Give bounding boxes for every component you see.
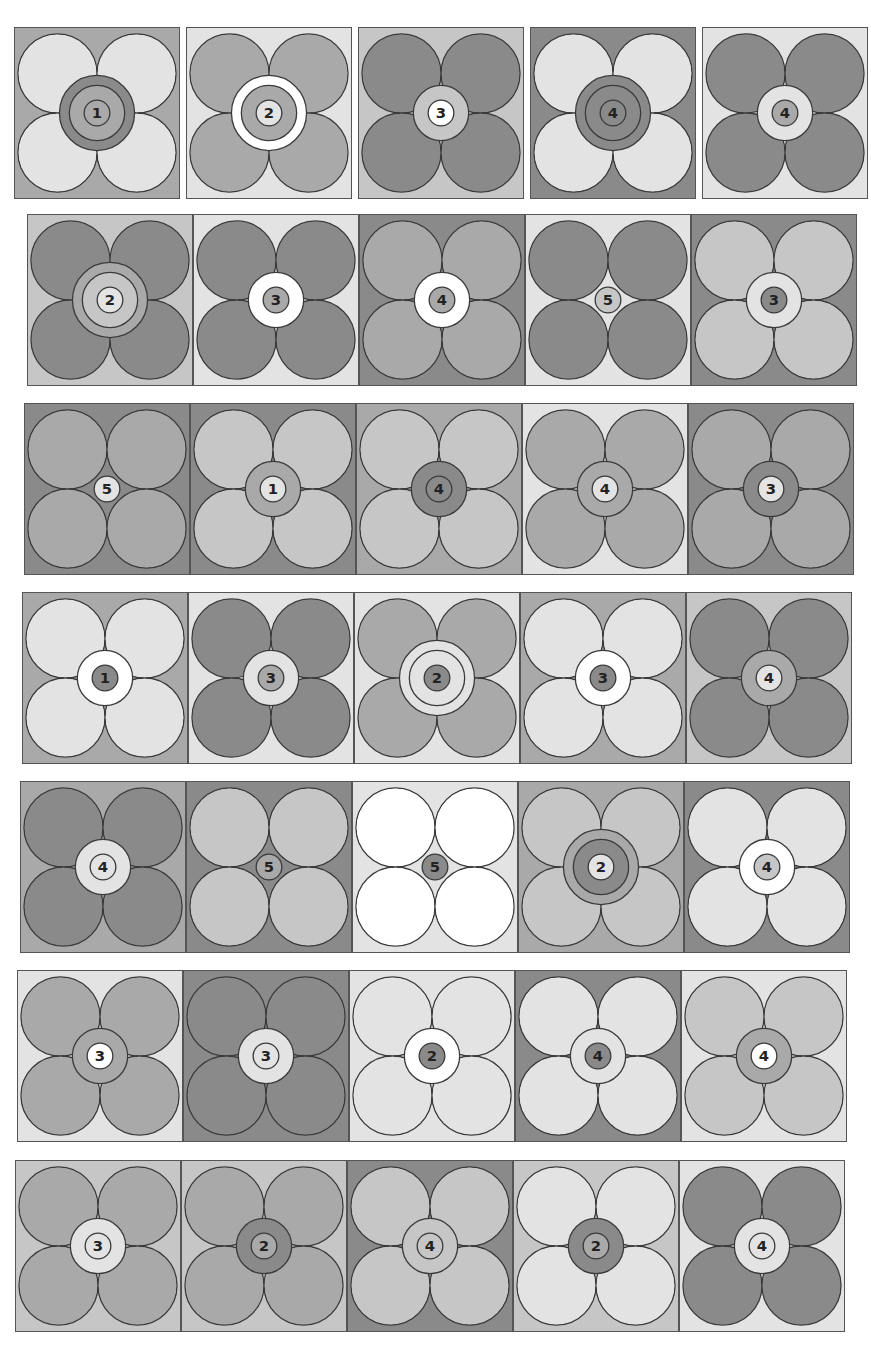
flower-tile[interactable]: 4 [530,27,696,199]
worksheet: 12344234535144313234455243324432424 [0,0,871,1345]
tile-number: 2 [105,291,115,308]
flower-tile[interactable]: 3 [520,592,686,764]
tile-number: 3 [436,104,446,121]
flower-tile[interactable]: 3 [183,970,349,1142]
flower-tile[interactable]: 3 [193,214,359,386]
tile-row: 33244 [17,970,847,1142]
flower-tile[interactable]: 4 [679,1160,845,1332]
flower-tile[interactable]: 1 [22,592,188,764]
flower-tile[interactable]: 4 [684,781,850,953]
flower-tile[interactable]: 1 [190,403,356,575]
tile-row: 13234 [22,592,852,764]
tile-number: 4 [764,669,774,686]
flower-icon: 1 [15,28,179,198]
tile-number: 3 [261,1047,271,1064]
flower-icon: 3 [194,215,358,385]
flower-tile[interactable]: 2 [27,214,193,386]
flower-tile[interactable]: 4 [522,403,688,575]
flower-tile[interactable]: 3 [188,592,354,764]
flower-tile[interactable]: 2 [513,1160,679,1332]
tile-row: 23453 [27,214,857,386]
flower-tile[interactable]: 4 [356,403,522,575]
flower-icon: 5 [187,782,351,952]
flower-tile[interactable]: 5 [525,214,691,386]
flower-tile[interactable]: 2 [354,592,520,764]
flower-tile[interactable]: 2 [349,970,515,1142]
tile-number: 4 [437,291,447,308]
tile-number: 1 [100,669,110,686]
flower-tile[interactable]: 4 [686,592,852,764]
flower-tile[interactable]: 4 [702,27,868,199]
tile-number: 4 [593,1047,603,1064]
flower-icon: 4 [348,1161,512,1331]
flower-icon: 3 [689,404,853,574]
flower-icon: 4 [680,1161,844,1331]
tile-number: 3 [598,669,608,686]
flower-tile[interactable]: 3 [691,214,857,386]
flower-tile[interactable]: 2 [186,27,352,199]
tile-number: 2 [596,858,606,875]
flower-tile[interactable]: 2 [181,1160,347,1332]
tile-row: 32424 [15,1160,845,1332]
flower-tile[interactable]: 1 [14,27,180,199]
tile-number: 2 [427,1047,437,1064]
flower-tile[interactable]: 4 [515,970,681,1142]
tile-number: 1 [268,480,278,497]
flower-icon: 4 [682,971,846,1141]
flower-icon: 3 [359,28,523,198]
tile-number: 4 [759,1047,769,1064]
flower-icon: 4 [687,593,851,763]
flower-icon: 4 [703,28,867,198]
tile-number: 4 [780,104,790,121]
flower-tile[interactable]: 2 [518,781,684,953]
flower-tile[interactable]: 3 [17,970,183,1142]
tile-row: 45524 [20,781,850,953]
flower-tile[interactable]: 5 [24,403,190,575]
flower-icon: 2 [28,215,192,385]
flower-icon: 2 [350,971,514,1141]
tile-number: 3 [266,669,276,686]
flower-icon: 2 [355,593,519,763]
flower-icon: 3 [18,971,182,1141]
flower-icon: 4 [357,404,521,574]
tile-number: 2 [432,669,442,686]
flower-tile[interactable]: 5 [186,781,352,953]
flower-tile[interactable]: 3 [688,403,854,575]
flower-icon: 4 [531,28,695,198]
flower-icon: 4 [685,782,849,952]
tile-number: 4 [425,1237,435,1254]
flower-tile[interactable]: 4 [359,214,525,386]
flower-icon: 4 [360,215,524,385]
tile-number: 3 [766,480,776,497]
flower-icon: 3 [692,215,856,385]
tile-number: 1 [92,104,102,121]
tile-row: 51443 [24,403,854,575]
tile-number: 2 [591,1237,601,1254]
flower-icon: 5 [526,215,690,385]
flower-tile[interactable]: 5 [352,781,518,953]
tile-number: 5 [102,480,112,497]
tile-number: 4 [762,858,772,875]
flower-icon: 5 [353,782,517,952]
flower-icon: 5 [25,404,189,574]
tile-number: 5 [264,858,274,875]
tile-number: 3 [271,291,281,308]
flower-icon: 1 [23,593,187,763]
tile-number: 2 [259,1237,269,1254]
tile-number: 4 [98,858,108,875]
tile-number: 3 [95,1047,105,1064]
flower-tile[interactable]: 3 [15,1160,181,1332]
flower-tile[interactable]: 3 [358,27,524,199]
flower-icon: 2 [514,1161,678,1331]
tile-number: 4 [600,480,610,497]
tile-number: 3 [93,1237,103,1254]
flower-tile[interactable]: 4 [20,781,186,953]
flower-tile[interactable]: 4 [347,1160,513,1332]
tile-row: 12344 [14,27,871,199]
flower-icon: 4 [523,404,687,574]
tile-number: 3 [769,291,779,308]
flower-icon: 4 [21,782,185,952]
tile-number: 2 [264,104,274,121]
flower-icon: 3 [521,593,685,763]
flower-tile[interactable]: 4 [681,970,847,1142]
